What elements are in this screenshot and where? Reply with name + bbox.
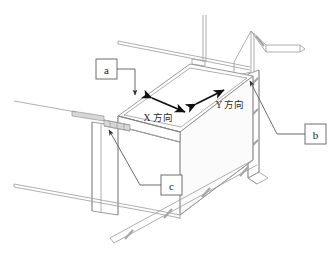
right-slab-underside (234, 31, 254, 76)
upper-structure-group (118, 15, 305, 76)
left-background-slab (14, 101, 76, 112)
hanger-rod-icon (203, 15, 206, 62)
callout-c-label: c (169, 180, 174, 192)
ceiling-beam-left (118, 41, 205, 61)
callout-a-label: a (104, 64, 109, 76)
callout-a[interactable]: a (96, 59, 135, 95)
y-direction-label: Y 方向 (216, 99, 245, 110)
callout-a-leader (117, 69, 135, 95)
x-direction-label: X 方向 (143, 112, 172, 123)
callout-b-label: b (313, 129, 319, 141)
callout-b[interactable]: b (250, 81, 326, 144)
right-top-beam (251, 31, 305, 52)
diagram-canvas: X 方向 Y 方向 a b c (0, 0, 335, 257)
upper-slab-edge (234, 31, 252, 62)
technical-diagram-figure: X 方向 Y 方向 a b c (0, 0, 335, 257)
